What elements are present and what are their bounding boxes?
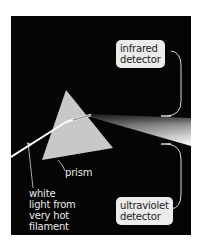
ultraviolet-label-line1: ultraviolet: [120, 200, 169, 211]
diagram-panel: infrared detector ultraviolet detector p…: [11, 16, 191, 235]
ultraviolet-label-line2: detector: [120, 211, 169, 222]
white-light-line4: filament: [29, 221, 76, 232]
infrared-detector-label: infrared detector: [116, 40, 165, 68]
infrared-label-line2: detector: [120, 54, 161, 65]
prism-label: prism: [65, 167, 92, 178]
white-light-line3: very hot: [29, 210, 76, 221]
white-light-pointer: [28, 142, 33, 188]
white-light-line2: light from: [29, 199, 76, 210]
white-light-line1: white: [29, 188, 76, 199]
white-light-label: white light from very hot filament: [29, 188, 76, 232]
prism-shape: [42, 90, 113, 160]
ultraviolet-detector-label: ultraviolet detector: [116, 197, 173, 225]
prism-label-text: prism: [65, 167, 92, 178]
prism-pointer: [58, 160, 65, 171]
infrared-bracket: [167, 51, 181, 116]
infrared-label-line1: infrared: [120, 43, 161, 54]
